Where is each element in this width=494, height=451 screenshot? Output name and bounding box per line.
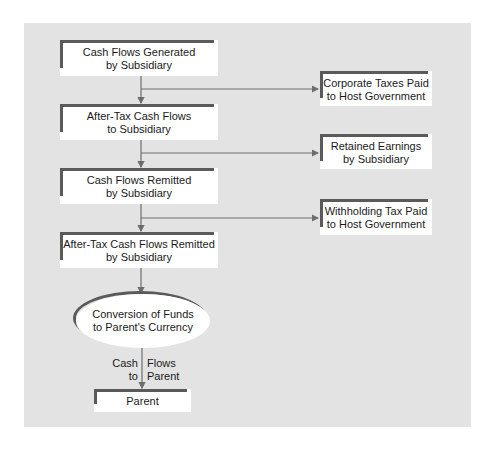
box-label: Retained Earnings by Subsidiary (331, 138, 422, 166)
conversion-ellipse: Conversion of Funds to Parent's Currency (76, 294, 210, 348)
box-label: Corporate Taxes Paid to Host Government (323, 75, 429, 103)
box-cash-flows-remitted: Cash Flows Remitted by Subsidiary (60, 168, 218, 204)
box-cash-flows-generated: Cash Flows Generated by Subsidiary (60, 40, 218, 76)
box-label: After-Tax Cash Flows to Subsidiary (87, 108, 192, 136)
box-corporate-taxes: Corporate Taxes Paid to Host Government (320, 71, 432, 106)
box-after-tax-cash-flows: After-Tax Cash Flows to Subsidiary (60, 104, 218, 140)
flow-label-right: Flows Parent (147, 357, 187, 383)
box-parent: Parent (94, 389, 191, 412)
conversion-label: Conversion of Funds to Parent's Currency (92, 308, 194, 334)
box-retained-earnings: Retained Earnings by Subsidiary (320, 134, 432, 169)
box-label: Cash Flows Remitted by Subsidiary (87, 172, 192, 200)
flow-label-left: Cash to (108, 357, 138, 383)
box-withholding-tax: Withholding Tax Paid to Host Government (320, 199, 432, 235)
box-label: Parent (126, 393, 158, 408)
box-label: Cash Flows Generated by Subsidiary (83, 44, 196, 72)
box-label: Withholding Tax Paid to Host Government (325, 203, 428, 231)
box-after-tax-cash-flows-remitted: After-Tax Cash Flows Remitted by Subsidi… (60, 232, 218, 268)
box-label: After-Tax Cash Flows Remitted by Subsidi… (63, 236, 215, 264)
